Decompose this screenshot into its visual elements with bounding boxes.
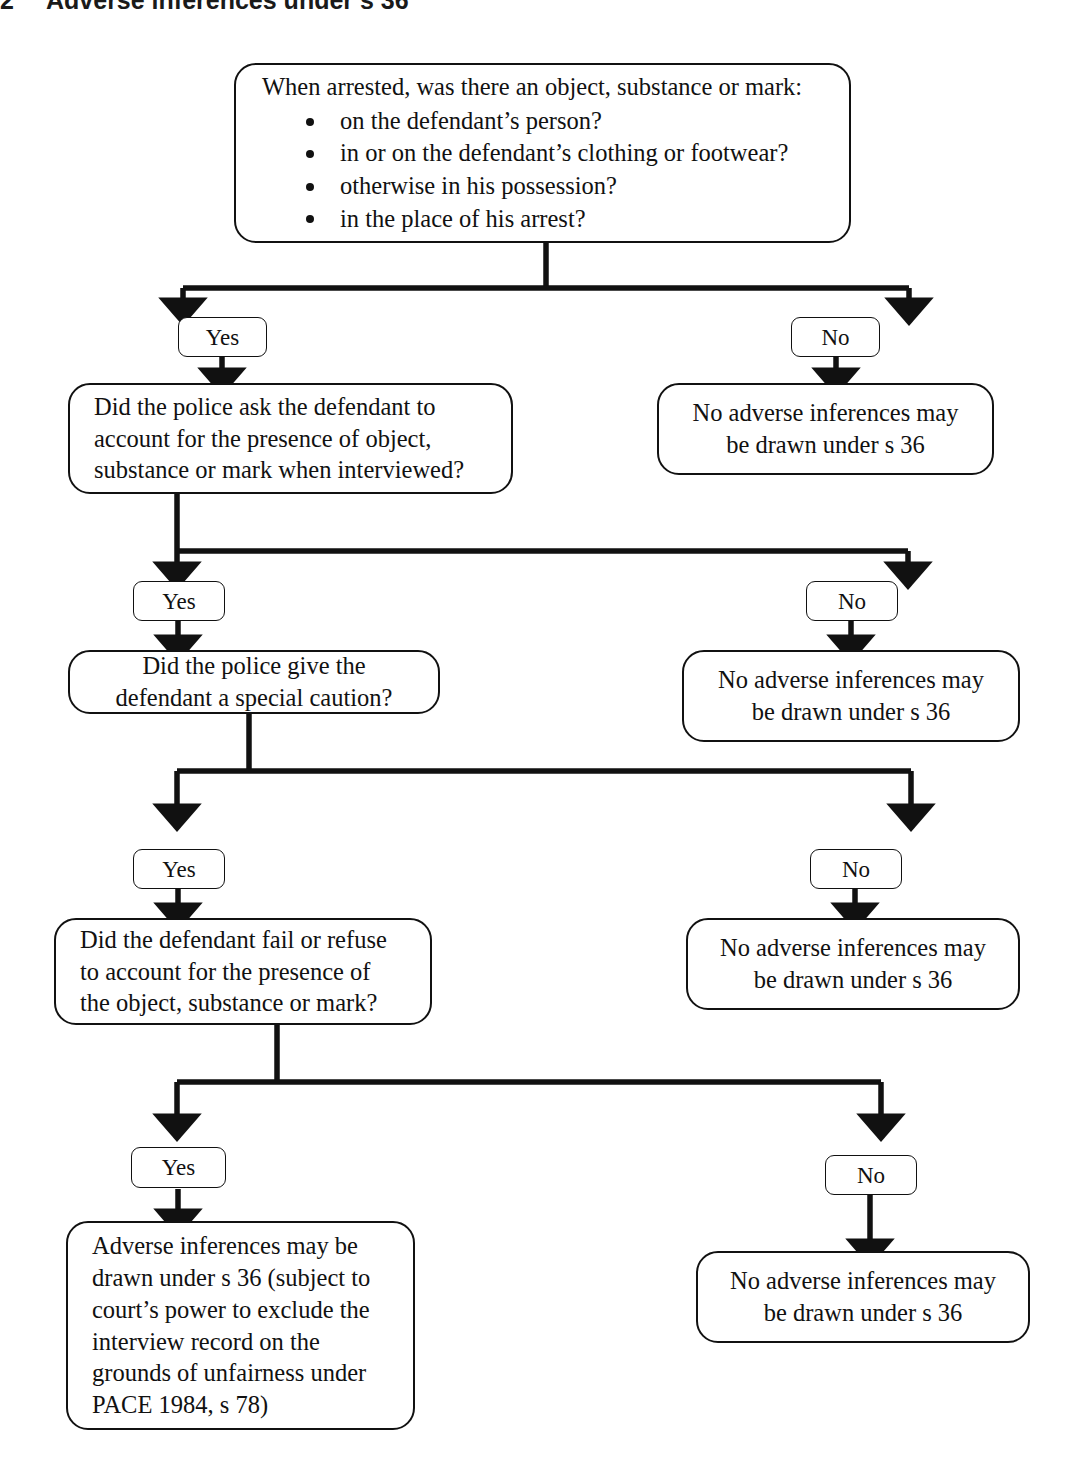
root-bullet-item: in the place of his arrest? [262,203,823,236]
question-node-3: Did the police give the defendant a spec… [68,650,440,714]
root-lead-text: When arrested, was there an object, subs… [262,71,823,103]
page-title: 2Adverse inferences under s 36 [0,0,700,17]
branch-label-yes-3: Yes [133,849,225,889]
branch-label-no-2: No [806,581,898,621]
page-title-number: 2 [0,0,46,17]
outcome-node-no-1: No adverse inferences may be drawn under… [657,383,994,475]
root-bullet-item: otherwise in his possession? [262,170,823,203]
outcome-node-no-2: No adverse inferences may be drawn under… [682,650,1020,742]
flowchart-page: 2Adverse inferences under s 36 [0,0,1072,1483]
question-node-4: Did the defendant fail or refuse to acco… [54,918,432,1025]
bullet-icon [306,150,314,158]
branch-label-yes-2: Yes [133,581,225,621]
outcome-node-yes-final: Adverse inferences may be drawn under s … [66,1221,415,1430]
question-node-2: Did the police ask the defendant to acco… [68,383,513,494]
branch-label-no-4: No [825,1155,917,1195]
root-bullet-item: on the defendant’s person? [262,105,823,138]
bullet-icon [306,183,314,191]
outcome-node-no-4: No adverse inferences may be drawn under… [696,1251,1030,1343]
outcome-node-no-3: No adverse inferences may be drawn under… [686,918,1020,1010]
root-bullet-list: on the defendant’s person? in or on the … [262,105,823,235]
root-bullet-item: in or on the defendant’s clothing or foo… [262,137,823,170]
bullet-icon [306,215,314,223]
question-node-root: When arrested, was there an object, subs… [234,63,851,243]
branch-label-yes-1: Yes [178,317,267,357]
branch-label-no-1: No [791,317,880,357]
branch-label-yes-4: Yes [131,1147,226,1188]
page-title-text: Adverse inferences under s 36 [46,0,409,14]
bullet-icon [306,118,314,126]
branch-label-no-3: No [810,849,902,889]
